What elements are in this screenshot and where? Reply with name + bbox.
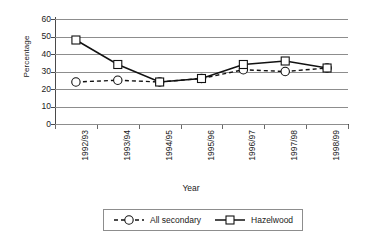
x-tick-mark bbox=[181, 125, 182, 129]
chart-legend: All secondaryHazelwood bbox=[103, 209, 303, 231]
legend-entry: All secondary bbox=[113, 214, 201, 226]
data-point-marker bbox=[281, 67, 289, 75]
x-tick-label: 1995/96 bbox=[206, 130, 216, 176]
x-tick-label: 1993/94 bbox=[122, 130, 132, 176]
y-axis-tick-labels: 0102030405060 bbox=[26, 0, 51, 246]
legend-marker bbox=[226, 216, 234, 224]
y-tick-label: 40 bbox=[29, 50, 51, 59]
data-point-marker bbox=[281, 57, 289, 65]
x-tick-mark bbox=[306, 125, 307, 129]
data-point-marker bbox=[114, 76, 122, 84]
data-point-marker bbox=[72, 36, 80, 44]
y-tick-mark bbox=[51, 107, 55, 108]
plot-area bbox=[55, 19, 348, 124]
x-tick-mark bbox=[264, 125, 265, 129]
y-tick-label: 60 bbox=[29, 15, 51, 24]
data-point-marker bbox=[323, 64, 331, 72]
x-tick-mark bbox=[348, 125, 349, 129]
x-tick-mark bbox=[139, 125, 140, 129]
legend-marker bbox=[125, 216, 133, 224]
legend-swatch-circle bbox=[113, 214, 145, 226]
data-point-marker bbox=[198, 75, 206, 83]
data-point-marker bbox=[114, 61, 122, 69]
x-tick-label: 1997/98 bbox=[289, 130, 299, 176]
y-tick-mark bbox=[51, 89, 55, 90]
x-tick-mark bbox=[222, 125, 223, 129]
legend-label: All secondary bbox=[150, 215, 201, 225]
legend-swatch-square bbox=[214, 214, 246, 226]
x-tick-label: 1996/97 bbox=[247, 130, 257, 176]
y-tick-mark bbox=[51, 19, 55, 20]
line-chart: Percentage 0102030405060 1992/931993/941… bbox=[0, 0, 382, 246]
x-axis-tick-labels: 1992/931993/941994/951995/961996/971997/… bbox=[0, 124, 382, 182]
y-tick-mark bbox=[51, 37, 55, 38]
y-tick-mark bbox=[51, 72, 55, 73]
x-tick-label: 1992/93 bbox=[80, 130, 90, 176]
data-point-marker bbox=[72, 78, 80, 86]
data-point-marker bbox=[156, 78, 164, 86]
y-tick-label: 10 bbox=[29, 102, 51, 111]
y-tick-mark bbox=[51, 54, 55, 55]
x-tick-mark bbox=[97, 125, 98, 129]
x-tick-label: 1998/99 bbox=[331, 130, 341, 176]
x-tick-mark bbox=[55, 125, 56, 129]
y-tick-label: 50 bbox=[29, 32, 51, 41]
data-point-marker bbox=[239, 61, 247, 69]
y-tick-label: 30 bbox=[29, 67, 51, 76]
legend-entry: Hazelwood bbox=[214, 214, 293, 226]
x-tick-label: 1994/95 bbox=[164, 130, 174, 176]
legend-label: Hazelwood bbox=[251, 215, 293, 225]
series-layer bbox=[55, 19, 348, 124]
y-tick-label: 20 bbox=[29, 85, 51, 94]
x-axis-title: Year bbox=[0, 183, 382, 193]
